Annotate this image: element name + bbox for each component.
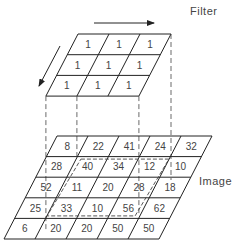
cell-value: 28 <box>133 182 145 193</box>
cell-value: 1 <box>147 39 153 50</box>
cell-value: 10 <box>175 161 187 172</box>
cell-value: 41 <box>124 141 136 152</box>
cell-value: 40 <box>82 161 94 172</box>
cell-value: 18 <box>164 182 176 193</box>
image-grid: 8224124322840341210521120281825331056626… <box>4 136 212 239</box>
cell-value: 20 <box>102 182 114 193</box>
cell-value: 62 <box>154 203 166 214</box>
cell-value: 50 <box>143 223 155 234</box>
cell-value: 8 <box>64 141 70 152</box>
cell-value: 1 <box>85 39 91 50</box>
cell-value: 12 <box>144 161 156 172</box>
cell-value: 1 <box>64 80 70 91</box>
cell-value: 25 <box>30 203 42 214</box>
diagonal-arrow-icon <box>39 46 60 86</box>
cell-value: 1 <box>95 80 101 91</box>
filter-grid: 111111111 <box>46 34 171 96</box>
convolution-diagram: 111111111 822412432284034121052112028182… <box>0 0 236 247</box>
cell-value: 1 <box>126 80 132 91</box>
cell-value: 20 <box>81 223 93 234</box>
cell-value: 22 <box>93 141 105 152</box>
cell-value: 1 <box>106 60 112 71</box>
cell-value: 24 <box>155 141 167 152</box>
cell-value: 6 <box>22 223 28 234</box>
cell-value: 1 <box>137 60 143 71</box>
cell-value: 1 <box>75 60 81 71</box>
cell-value: 50 <box>112 223 124 234</box>
cell-value: 56 <box>123 203 135 214</box>
cell-value: 11 <box>72 182 83 193</box>
cell-value: 32 <box>186 141 198 152</box>
cell-value: 20 <box>50 223 62 234</box>
cell-value: 1 <box>116 39 122 50</box>
cell-value: 33 <box>61 203 73 214</box>
cell-value: 28 <box>51 161 63 172</box>
cell-value: 34 <box>113 161 125 172</box>
cell-value: 52 <box>40 182 52 193</box>
cell-value: 10 <box>92 203 104 214</box>
